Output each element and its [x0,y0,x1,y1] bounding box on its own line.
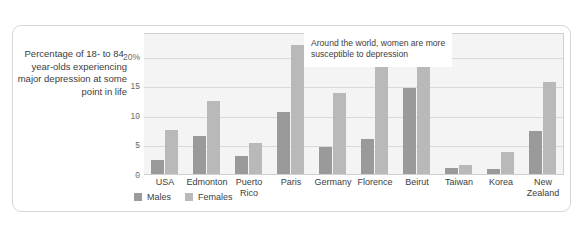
bar-females [165,130,178,174]
bar-males [529,131,542,174]
x-tick-label: Korea [480,177,522,188]
bar-males [277,112,290,174]
legend-swatch-females-icon [185,193,193,201]
bar-males [403,88,416,174]
bar-males [487,169,500,174]
bar-females [375,66,388,174]
chart-annotation: Around the world, women are more suscept… [304,33,452,67]
y-tick-mark [137,175,140,176]
legend-item-females: Females [185,192,233,202]
bar-females [543,82,556,174]
y-tick-mark [137,57,140,58]
y-tick-mark [137,145,140,146]
bar-group [186,34,228,174]
bar-group [480,34,522,174]
x-tick-label: Puerto Rico [228,177,270,199]
bar-females [459,165,472,174]
bar-group [522,34,564,174]
bar-females [249,143,262,174]
bar-group [228,34,270,174]
x-tick-label: Taiwan [438,177,480,188]
bar-group [144,34,186,174]
legend-swatch-males-icon [134,193,142,201]
bar-males [445,168,458,174]
x-tick-label: New Zealand [522,177,564,199]
x-tick-label: Florence [354,177,396,188]
x-tick-label: Edmonton [186,177,228,188]
bar-males [319,147,332,174]
legend-item-males: Males [134,192,171,202]
bar-females [207,101,220,174]
bar-females [501,152,514,174]
legend-label-females: Females [198,192,233,202]
bar-males [361,139,374,174]
y-tick-mark [137,116,140,117]
bar-males [151,160,164,174]
x-tick-label: USA [144,177,186,188]
bar-females [291,45,304,174]
y-axis-tick-labels: 05101520% [112,33,140,175]
bar-males [235,156,248,174]
y-tick-mark [137,86,140,87]
chart-figure: Percentage of 18- to 84-year-olds experi… [12,25,571,212]
bar-males [193,136,206,174]
x-tick-label: Paris [270,177,312,188]
bar-females [333,93,346,174]
legend-label-males: Males [147,192,171,202]
y-axis-caption: Percentage of 18- to 84-year-olds experi… [17,48,127,98]
chart-legend: Males Females [134,192,233,202]
x-tick-label: Beirut [396,177,438,188]
x-tick-label: Germany [312,177,354,188]
